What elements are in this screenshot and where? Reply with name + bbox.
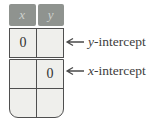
cell-row3-y [36,89,63,117]
column-header-x: x [9,4,36,26]
table-row-3 [10,88,63,117]
x-intercept-label: x-intercept [88,63,146,79]
cell-row1-y [36,29,63,57]
left-arrow-icon [65,66,84,76]
x-intercept-annotation: x-intercept [65,63,146,79]
cell-row3-x [10,89,36,117]
column-header-x-label: x [19,7,25,23]
intercepts-diagram: x y 0 0 y-intercept [0,0,157,127]
left-arrow-icon [65,37,84,47]
y-intercept-label: y-intercept [88,34,146,50]
table-lower-section: 0 [9,59,64,118]
cell-row2-x [10,60,36,88]
cell-row2-y: 0 [36,60,63,88]
y-intercept-annotation: y-intercept [65,34,146,50]
xy-table: x y 0 0 [9,4,64,118]
x-intercept-suffix: -intercept [94,63,146,78]
column-header-y-label: y [48,7,54,23]
y-intercept-suffix: -intercept [94,34,146,49]
table-header-row: x y [9,4,64,26]
cell-row1-x: 0 [10,29,36,57]
table-row-2: 0 [10,60,63,88]
column-header-y: y [38,4,65,26]
table-row-1: 0 [9,28,64,58]
